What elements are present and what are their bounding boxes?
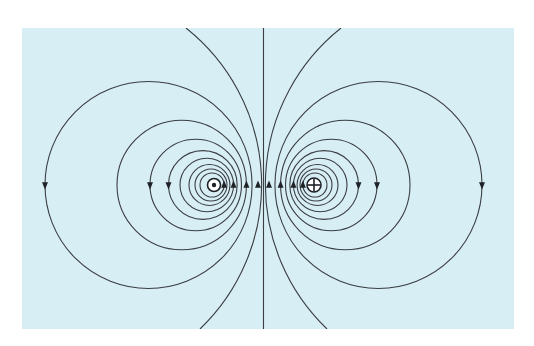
diagram-background (22, 28, 514, 329)
wire-into-page-icon (307, 178, 321, 192)
wire-out-of-page-icon (208, 179, 221, 192)
field-diagram (0, 0, 534, 346)
